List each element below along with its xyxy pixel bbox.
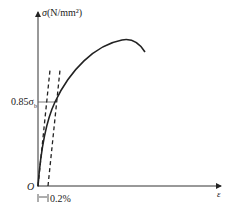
origin-label: O: [27, 182, 34, 192]
offset-dashed-line: [48, 70, 60, 186]
stress-strain-curve: [38, 40, 145, 186]
y-axis-label: σ(N/mm²): [42, 8, 82, 18]
level-label: 0.85σb: [11, 97, 37, 109]
x-axis-label: ε: [217, 190, 221, 199]
offset-label: 0.2%: [50, 194, 71, 204]
